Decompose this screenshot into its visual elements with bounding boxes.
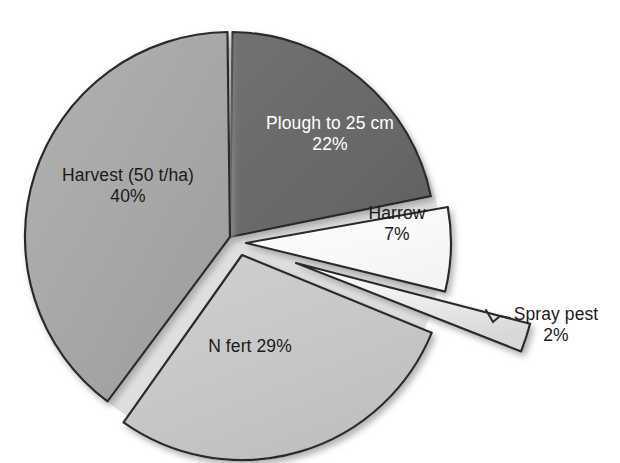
pie-chart-figure: Plough to 25 cm 22% Harvest (50 t/ha) 40… [0,0,620,463]
pie-chart-canvas [0,0,620,463]
